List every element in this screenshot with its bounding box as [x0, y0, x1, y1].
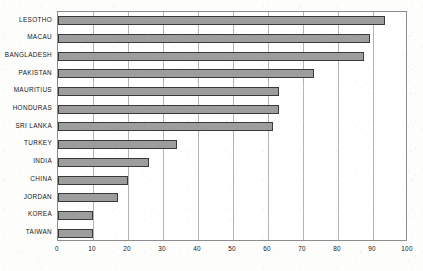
category-label: CHINA — [30, 176, 52, 182]
bar-row — [58, 30, 406, 48]
bar — [58, 140, 177, 149]
bar — [58, 229, 93, 238]
x-tick-label: 40 — [193, 246, 201, 252]
bar — [58, 211, 93, 220]
bar-row — [58, 189, 406, 207]
bar-row — [58, 100, 406, 118]
x-tick-label: 100 — [401, 246, 412, 252]
bar — [58, 52, 364, 61]
x-tick-label: 90 — [368, 246, 376, 252]
category-label: LESOTHO — [19, 17, 52, 23]
x-tick-label: 20 — [123, 246, 131, 252]
category-label: PAKISTAN — [19, 70, 52, 76]
bar — [58, 193, 118, 202]
bar-row — [58, 83, 406, 101]
x-tick-label: 10 — [88, 246, 96, 252]
bar — [58, 16, 385, 25]
bar-row — [58, 118, 406, 136]
bar-row — [58, 224, 406, 242]
category-label: HONDURAS — [13, 105, 52, 111]
x-tick-label: 0 — [55, 246, 59, 252]
category-label: JORDAN — [24, 194, 52, 200]
x-tick-label: 50 — [228, 246, 236, 252]
bar — [58, 34, 370, 43]
x-tick-label: 60 — [263, 246, 271, 252]
bar — [58, 158, 149, 167]
category-label: TURKEY — [24, 140, 52, 146]
category-label: BANGLADESH — [5, 52, 52, 58]
category-label: TAIWAN — [26, 229, 52, 235]
plot-area — [57, 11, 407, 241]
x-tick-label: 30 — [158, 246, 166, 252]
x-tick-label: 70 — [298, 246, 306, 252]
category-label: MACAU — [27, 34, 52, 40]
bar — [58, 176, 128, 185]
bar — [58, 69, 314, 78]
bar-row — [58, 154, 406, 172]
bar — [58, 87, 279, 96]
bar-row — [58, 47, 406, 65]
bar — [58, 122, 273, 131]
category-label: KOREA — [28, 211, 52, 217]
bar — [58, 105, 279, 114]
bar-row — [58, 136, 406, 154]
x-tick-label: 80 — [333, 246, 341, 252]
bar-chart-figure: LESOTHOMACAUBANGLADESHPAKISTANMAURITIUSH… — [0, 0, 423, 271]
category-label: SRI LANKA — [15, 123, 52, 129]
bar-row — [58, 65, 406, 83]
bar-row — [58, 207, 406, 225]
bar-row — [58, 12, 406, 30]
category-label: INDIA — [33, 158, 52, 164]
category-label: MAURITIUS — [14, 87, 52, 93]
bar-row — [58, 171, 406, 189]
